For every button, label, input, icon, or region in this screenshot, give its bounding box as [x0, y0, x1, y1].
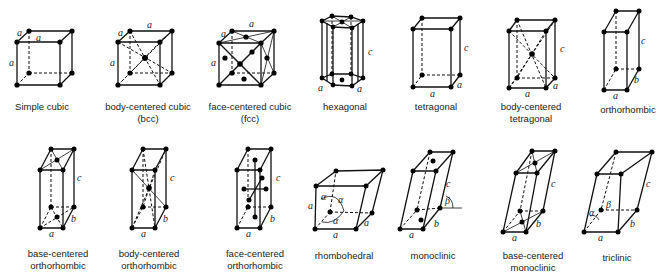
svg-text:b: b [536, 218, 541, 229]
svg-text:α: α [321, 191, 327, 202]
svg-text:a: a [318, 82, 323, 93]
bcc-cell: aaa [110, 19, 175, 88]
label-tetragonal: tetragonal [415, 101, 457, 113]
label-orthorhombic: orthorhombic [600, 104, 655, 116]
svg-text:b: b [71, 213, 76, 224]
svg-text:a: a [613, 90, 618, 101]
base-centered-orthorhombic-cell: cab [38, 147, 83, 240]
svg-text:a: a [308, 200, 313, 211]
svg-text:a: a [357, 83, 362, 94]
svg-text:α: α [589, 207, 595, 218]
svg-text:c: c [368, 46, 373, 57]
svg-text:c: c [276, 172, 281, 183]
svg-text:a: a [553, 80, 558, 91]
svg-text:a: a [211, 57, 216, 68]
label-fcc: face-centered cubic(fcc) [209, 101, 292, 125]
face-centered-orthorhombic-cell: cab [235, 147, 282, 240]
svg-text:c: c [77, 172, 82, 183]
hexagonal-cell: caa [318, 14, 373, 94]
orthorhombic-cell: cab [602, 9, 647, 102]
svg-text:a: a [409, 229, 414, 240]
svg-text:a: a [221, 28, 226, 39]
svg-text:a: a [430, 88, 435, 99]
svg-text:a: a [9, 57, 14, 68]
simple-cubic-cell: aaa [9, 27, 75, 88]
label-body-centered-orthorhombic: body-centeredorthorhombic [119, 248, 180, 272]
lattice-diagram-canvas: aaa aaa aaa [0, 0, 666, 279]
svg-text:c: c [560, 43, 565, 54]
fcc-cell: aaa [211, 18, 277, 88]
svg-text:c: c [170, 172, 175, 183]
svg-text:b: b [634, 74, 639, 85]
svg-text:c: c [464, 42, 469, 53]
svg-text:β: β [605, 199, 611, 210]
label-body-centered-tetragonal: body-centeredtetragonal [501, 101, 562, 125]
svg-text:b: b [163, 213, 168, 224]
svg-text:a: a [110, 57, 115, 68]
svg-text:a: a [333, 229, 338, 240]
svg-text:a: a [598, 232, 603, 243]
triclinic-cell: cαβab [582, 150, 655, 244]
svg-text:a: a [364, 217, 369, 228]
base-centered-monoclinic-cell: cab [501, 149, 558, 244]
svg-text:b: b [270, 213, 275, 224]
svg-text:c: c [646, 178, 651, 189]
svg-text:c: c [446, 178, 451, 189]
body-centered-orthorhombic-cell: cab [130, 147, 176, 240]
label-base-centered-orthorhombic: base-centeredorthorhombic [28, 248, 89, 272]
tetragonal-cell: caa [411, 16, 470, 100]
label-simple-cubic: Simple cubic [15, 101, 69, 113]
svg-text:a: a [17, 27, 22, 38]
svg-text:α: α [333, 215, 339, 226]
svg-text:a: a [118, 27, 123, 38]
label-triclinic: triclinic [602, 252, 631, 264]
svg-text:a: a [246, 228, 251, 239]
svg-text:a: a [49, 228, 54, 239]
rhombohedral-cell: ααα aaa [308, 168, 386, 241]
svg-text:c: c [641, 35, 646, 46]
svg-text:b: b [630, 218, 635, 229]
svg-text:a: a [141, 228, 146, 239]
svg-text:a: a [147, 19, 152, 30]
body-centered-tetragonal-cell: caa [507, 18, 566, 100]
svg-text:α: α [338, 194, 344, 205]
svg-text:a: a [512, 232, 517, 243]
svg-text:a: a [457, 79, 462, 90]
label-hexagonal: hexagonal [323, 101, 367, 113]
svg-text:a: a [36, 32, 41, 43]
label-face-centered-orthorhombic: face-centeredorthorhombic [226, 248, 284, 272]
svg-text:β: β [444, 195, 450, 206]
label-monoclinic: monoclinic [411, 250, 456, 262]
svg-text:b: b [434, 218, 439, 229]
svg-text:c: c [551, 178, 556, 189]
label-rhombohedral: rhombohedral [315, 250, 374, 262]
label-base-centered-monoclinic: base-centeredmonoclinic [503, 250, 564, 274]
svg-text:a: a [249, 18, 254, 29]
label-bcc: body-centered cubic(bcc) [105, 101, 191, 125]
monoclinic-cell: cβab [398, 150, 463, 241]
svg-text:a: a [525, 88, 530, 99]
